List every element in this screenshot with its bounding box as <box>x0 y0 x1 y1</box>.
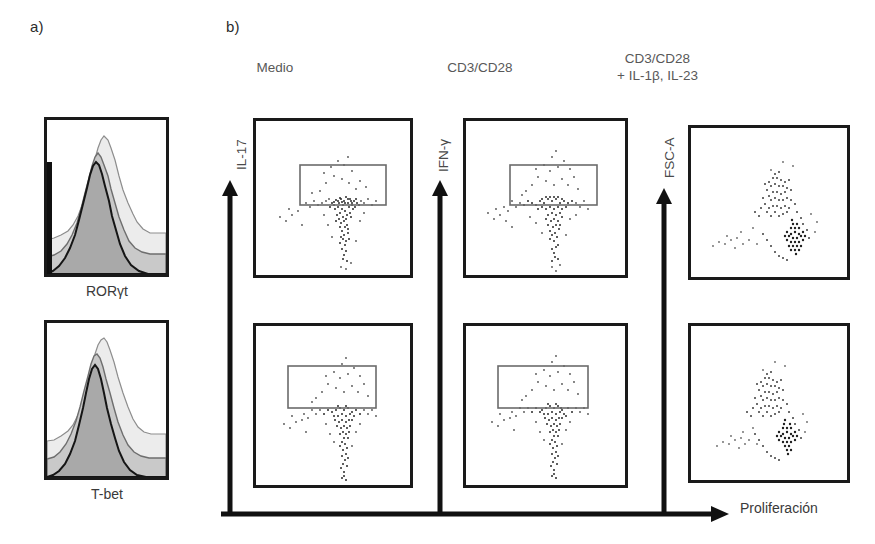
y-axis-label-il17: IL-17 <box>234 139 249 170</box>
scatter-svg <box>466 121 625 275</box>
panel-a-letter: a) <box>30 18 44 35</box>
scatter-dots <box>487 150 589 272</box>
column-header-medio: Medio <box>215 60 335 77</box>
histogram-label-tbet: T-bet <box>37 486 177 502</box>
scatter-dots <box>716 361 808 461</box>
gate-rectangle <box>288 366 376 408</box>
gate-rectangle <box>498 366 588 408</box>
y-axis-arrow-fsca <box>653 188 675 515</box>
scatter-svg <box>691 326 847 480</box>
gate-rectangle <box>300 165 386 205</box>
scatter-svg <box>691 128 847 277</box>
scatter-dots <box>491 355 589 479</box>
scatter-plot-row2-medio <box>253 323 413 488</box>
x-axis-arrow-proliferacion <box>219 503 731 525</box>
histogram-svg-rorgt <box>47 120 166 274</box>
histogram-plot-rorgt <box>44 117 169 277</box>
column-header-cd3-cd28-il1b-il23: CD3/CD28 + IL-1β, IL-23 <box>585 51 730 85</box>
scatter-plot-fsca-cd3cd28-il1b-il23 <box>688 125 850 280</box>
scatter-svg <box>256 121 410 275</box>
scatter-plot-row2-cd3cd28-il1b-il23 <box>688 323 850 483</box>
scatter-dots <box>283 357 377 481</box>
y-axis-arrow-il17 <box>219 180 241 515</box>
scatter-plot-row2-cd3cd28 <box>463 323 628 488</box>
histogram-plot-tbet <box>44 320 169 480</box>
histogram-svg-tbet <box>47 323 166 477</box>
scatter-plot-il17-medio <box>253 118 413 278</box>
panel-b-letter: b) <box>226 18 240 35</box>
y-axis-label-ifng: IFN-γ <box>436 139 451 172</box>
y-axis-arrow-ifng <box>429 180 451 515</box>
y-axis-label-fsca: FSC-A <box>662 138 677 179</box>
x-axis-label-proliferacion: Proliferación <box>740 500 818 516</box>
figure-root: a) b) Medio CD3/CD28 CD3/CD28 + IL-1β, I… <box>0 0 875 544</box>
scatter-svg <box>256 326 410 485</box>
hist-left-marker <box>47 162 52 274</box>
scatter-plot-ifng-cd3cd28 <box>463 118 628 278</box>
column-header-cd3-cd28: CD3/CD28 <box>415 60 545 77</box>
histogram-label-rorgt: RORγt <box>37 283 177 299</box>
scatter-dots <box>712 161 818 261</box>
scatter-dots <box>279 156 377 270</box>
scatter-svg <box>466 326 625 485</box>
